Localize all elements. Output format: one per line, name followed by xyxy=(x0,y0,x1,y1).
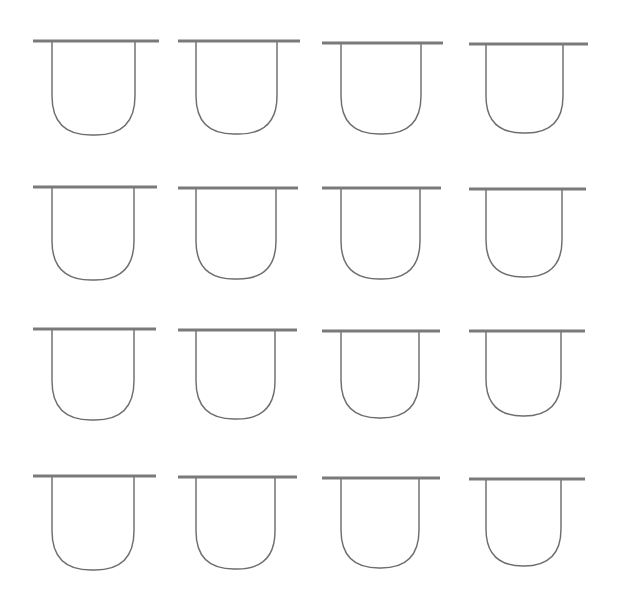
u-vessel-glyph xyxy=(322,478,440,568)
figure-canvas xyxy=(0,0,618,606)
u-vessel-glyph xyxy=(33,329,156,420)
u-body-outline xyxy=(196,41,277,134)
u-vessel-glyph xyxy=(178,41,300,134)
u-vessel-glyph xyxy=(33,476,156,570)
u-body-outline xyxy=(196,330,275,419)
u-body-outline xyxy=(341,331,419,418)
u-body-outline xyxy=(52,187,134,280)
u-vessel-glyph xyxy=(33,187,157,280)
u-body-outline xyxy=(341,188,420,279)
u-body-outline xyxy=(52,41,135,135)
u-vessel-glyph xyxy=(33,41,159,135)
u-vessel-glyph xyxy=(178,188,298,279)
u-vessel-glyph xyxy=(322,188,441,279)
u-body-outline xyxy=(196,477,275,569)
u-vessel-glyph xyxy=(322,43,443,134)
u-vessel-glyph xyxy=(469,189,586,277)
u-vessel-glyph xyxy=(178,330,297,419)
u-body-outline xyxy=(341,478,419,568)
u-body-outline xyxy=(52,329,134,420)
u-vessel-glyph xyxy=(469,44,588,133)
u-body-outline xyxy=(341,43,421,134)
u-body-outline xyxy=(486,479,561,566)
u-vessel-glyph xyxy=(178,477,297,569)
u-vessel-glyph xyxy=(469,479,585,566)
u-body-outline xyxy=(486,189,562,277)
u-body-outline xyxy=(196,188,276,279)
u-body-outline xyxy=(486,44,563,133)
u-vessel-glyph xyxy=(469,331,585,416)
u-vessel-glyph xyxy=(322,331,440,418)
u-body-outline xyxy=(52,476,134,570)
glyph-grid xyxy=(0,0,618,606)
u-body-outline xyxy=(486,331,561,416)
